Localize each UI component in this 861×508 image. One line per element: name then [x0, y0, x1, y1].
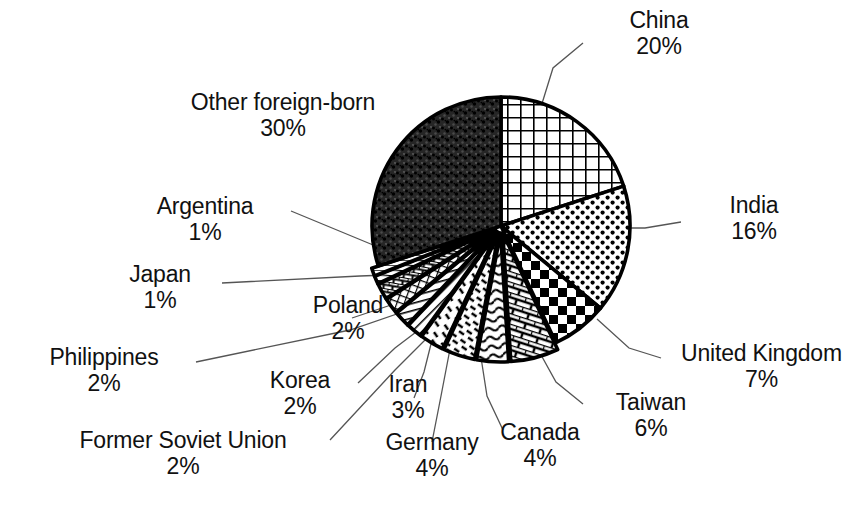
- label-japan-pct: 1%: [100, 288, 220, 314]
- label-korea-pct: 2%: [240, 394, 360, 420]
- label-united-kingdom: United Kingdom 7%: [662, 341, 861, 393]
- label-korea: Korea 2%: [240, 368, 360, 420]
- label-united-kingdom-pct: 7%: [662, 367, 861, 393]
- label-poland-pct: 2%: [288, 319, 408, 345]
- label-korea-name: Korea: [240, 368, 360, 394]
- label-india-pct: 16%: [684, 219, 824, 245]
- label-philippines-name: Philippines: [14, 345, 194, 371]
- label-other-foreign-born-pct: 30%: [158, 116, 408, 142]
- label-former-soviet-union-pct: 2%: [38, 454, 328, 480]
- label-former-soviet-union-name: Former Soviet Union: [38, 428, 328, 454]
- label-china-pct: 20%: [584, 34, 734, 60]
- label-former-soviet-union: Former Soviet Union 2%: [38, 428, 328, 480]
- label-united-kingdom-name: United Kingdom: [662, 341, 861, 367]
- label-argentina-pct: 1%: [120, 220, 290, 246]
- label-other-foreign-born-name: Other foreign-born: [158, 90, 408, 116]
- label-china: China 20%: [584, 8, 734, 60]
- label-india-name: India: [684, 193, 824, 219]
- label-argentina: Argentina 1%: [120, 194, 290, 246]
- label-other-foreign-born: Other foreign-born 30%: [158, 90, 408, 142]
- label-india: India 16%: [684, 193, 824, 245]
- label-philippines: Philippines 2%: [14, 345, 194, 397]
- label-iran-name: Iran: [360, 372, 456, 398]
- label-iran-pct: 3%: [360, 398, 456, 424]
- label-poland: Poland 2%: [288, 293, 408, 345]
- leader-line-china: [540, 43, 583, 110]
- label-iran: Iran 3%: [360, 372, 456, 424]
- label-japan: Japan 1%: [100, 262, 220, 314]
- label-poland-name: Poland: [288, 293, 408, 319]
- label-germany: Germany 4%: [352, 430, 512, 482]
- label-germany-name: Germany: [352, 430, 512, 456]
- label-germany-pct: 4%: [352, 456, 512, 482]
- pie-slices-final: [372, 97, 630, 362]
- pie-chart-figure: China 20% Other foreign-born 30% India 1…: [0, 0, 861, 508]
- label-philippines-pct: 2%: [14, 371, 194, 397]
- label-japan-name: Japan: [100, 262, 220, 288]
- label-taiwan-name: Taiwan: [586, 390, 716, 416]
- label-argentina-name: Argentina: [120, 194, 290, 220]
- leader-line-uk: [597, 319, 661, 358]
- label-china-name: China: [584, 8, 734, 34]
